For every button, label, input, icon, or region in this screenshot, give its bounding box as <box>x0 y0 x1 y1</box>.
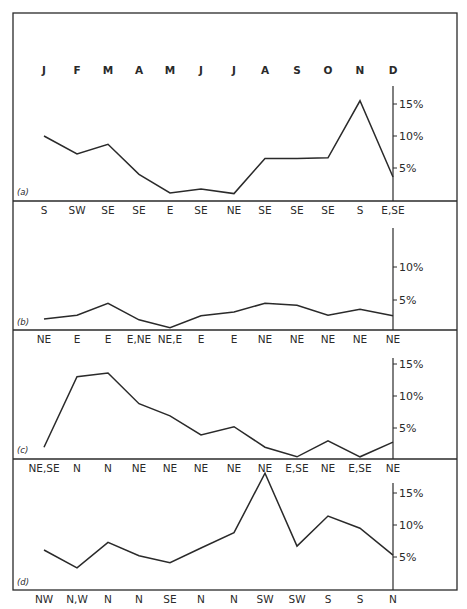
wind-direction-label: NE <box>132 462 147 474</box>
wind-direction-label: N <box>197 593 205 605</box>
wind-direction-label: SW <box>68 204 86 216</box>
wind-direction-label: N <box>104 593 112 605</box>
month-label: A <box>135 64 144 76</box>
y-tick-label: 5% <box>399 294 416 307</box>
wind-direction-label: SE <box>321 204 334 216</box>
wind-direction-label: SW <box>256 593 274 605</box>
wind-direction-label: NE <box>194 462 209 474</box>
panels: 5%10%15%(a)SSWSESEESENESESESESE,SE5%10%(… <box>13 86 457 605</box>
wind-direction-label: S <box>325 593 332 605</box>
panel-b: 5%10%(b)NEEEE,NENE,EEENENENENENE <box>13 228 457 345</box>
wind-direction-label: SE <box>101 204 114 216</box>
wind-direction-label: NE <box>163 462 178 474</box>
wind-direction-label: N <box>104 462 112 474</box>
panel-label: (a) <box>17 187 29 197</box>
wind-direction-label: NE,E <box>158 333 182 345</box>
month-label: O <box>324 64 333 76</box>
wind-direction-label: SW <box>288 593 306 605</box>
wind-direction-label: E <box>105 333 112 345</box>
wind-direction-label: E,SE <box>348 462 371 474</box>
wind-direction-label: E <box>231 333 238 345</box>
wind-direction-label: NE <box>386 333 401 345</box>
month-label: S <box>293 64 301 76</box>
wind-direction-label: E <box>167 204 174 216</box>
wind-direction-label: E <box>198 333 205 345</box>
month-label: J <box>198 64 203 76</box>
month-label: M <box>103 64 113 76</box>
panel-label: (d) <box>17 577 29 587</box>
wind-direction-label: S <box>357 204 364 216</box>
y-tick-label: 10% <box>399 261 423 274</box>
month-label: J <box>41 64 46 76</box>
y-tick-label: 5% <box>399 162 416 175</box>
figure: JFMAMJJASOND 5%10%15%(a)SSWSESEESENESESE… <box>0 0 467 609</box>
wind-direction-label: NE <box>353 333 368 345</box>
outer-border <box>13 13 457 590</box>
wind-direction-label: NE <box>258 333 273 345</box>
data-line <box>44 303 393 327</box>
wind-direction-label: NE <box>290 333 305 345</box>
wind-direction-label: N <box>73 462 81 474</box>
wind-direction-label: NE <box>227 462 242 474</box>
y-tick-label: 15% <box>399 487 423 500</box>
y-tick-label: 5% <box>399 422 416 435</box>
wind-direction-label: NE <box>37 333 52 345</box>
wind-direction-label: N <box>389 593 397 605</box>
wind-direction-label: N <box>135 593 143 605</box>
month-label: F <box>73 64 80 76</box>
month-label: A <box>261 64 270 76</box>
month-label: D <box>389 64 398 76</box>
wind-direction-label: N,W <box>66 593 88 605</box>
y-tick-label: 5% <box>399 551 416 564</box>
wind-direction-label: NE <box>321 462 336 474</box>
wind-direction-label: SE <box>194 204 207 216</box>
wind-direction-label: E,SE <box>285 462 308 474</box>
wind-direction-label: E,SE <box>381 204 404 216</box>
wind-direction-label: N <box>230 593 238 605</box>
wind-direction-label: NE,SE <box>28 462 59 474</box>
data-line <box>44 373 393 457</box>
month-label: J <box>231 64 236 76</box>
wind-direction-label: E,NE <box>127 333 151 345</box>
month-label: M <box>165 64 175 76</box>
wind-direction-label: NE <box>321 333 336 345</box>
wind-direction-label: SE <box>163 593 176 605</box>
y-tick-label: 10% <box>399 390 423 403</box>
data-line <box>44 473 393 568</box>
wind-direction-label: NE <box>227 204 242 216</box>
y-tick-label: 15% <box>399 98 423 111</box>
wind-direction-label: NE <box>386 462 401 474</box>
panel-d: 5%10%15%(d)NWN,WNNSENNSWSWSSN <box>17 473 423 605</box>
month-label: N <box>356 64 365 76</box>
y-tick-label: 15% <box>399 358 423 371</box>
wind-direction-label: NW <box>35 593 54 605</box>
y-tick-label: 10% <box>399 130 423 143</box>
data-line <box>44 101 393 194</box>
month-labels: JFMAMJJASOND <box>41 64 398 76</box>
wind-direction-label: SE <box>290 204 303 216</box>
wind-direction-label: S <box>41 204 48 216</box>
wind-direction-label: S <box>357 593 364 605</box>
y-tick-label: 10% <box>399 519 423 532</box>
panel-label: (c) <box>17 445 28 455</box>
panel-label: (b) <box>17 317 29 327</box>
figure-frame <box>13 13 457 590</box>
panel-a: 5%10%15%(a)SSWSESEESENESESESESE,SE <box>13 86 457 216</box>
wind-direction-label: E <box>74 333 81 345</box>
wind-direction-label: SE <box>132 204 145 216</box>
panel-c: 5%10%15%(c)NE,SENNNENENENENEE,SENEE,SENE <box>13 358 457 474</box>
wind-direction-label: SE <box>258 204 271 216</box>
